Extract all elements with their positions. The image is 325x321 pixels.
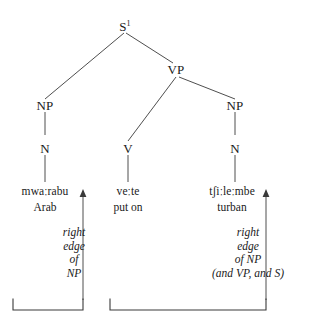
tree-node-np-object: NP bbox=[226, 99, 243, 112]
bracket-left bbox=[13, 299, 83, 310]
branch-s-vp bbox=[126, 33, 173, 63]
lexical-item-1: mwaːrabu bbox=[22, 186, 69, 198]
s-superscript: 1 bbox=[127, 19, 131, 28]
annotation-right-line-3: of NP bbox=[212, 253, 284, 267]
tree-node-n-object: N bbox=[230, 142, 240, 155]
tree-node-v: V bbox=[123, 142, 133, 155]
lexical-item-2: veːte bbox=[117, 186, 140, 198]
branch-vp-np bbox=[179, 77, 235, 99]
annotation-left-line-3: of bbox=[63, 253, 85, 267]
tree-node-np-subject: NP bbox=[36, 99, 53, 112]
annotation-left-line-1: right bbox=[63, 226, 85, 240]
branch-s-np bbox=[45, 33, 124, 99]
branch-vp-v bbox=[128, 77, 176, 141]
annotation-right-line-2: edge bbox=[212, 240, 284, 254]
gloss-1: Arab bbox=[34, 202, 57, 214]
bracket-right bbox=[110, 299, 266, 310]
annotation-left: right edge of NP bbox=[63, 226, 85, 280]
tree-node-s: S1 bbox=[119, 20, 131, 33]
gloss-2: put on bbox=[113, 202, 142, 214]
annotation-right-line-4: (and VP, and S) bbox=[212, 267, 284, 281]
tree-node-n-subject: N bbox=[40, 142, 50, 155]
annotation-right: right edge of NP (and VP, and S) bbox=[212, 226, 284, 280]
annotation-right-line-1: right bbox=[212, 226, 284, 240]
pointer-arrowhead-right bbox=[263, 189, 270, 197]
gloss-3: turban bbox=[217, 202, 246, 214]
tree-node-vp: VP bbox=[167, 63, 184, 76]
annotation-left-line-4: NP bbox=[63, 267, 85, 281]
lexical-item-3: tʃiːleːmbe bbox=[209, 186, 255, 198]
annotation-left-line-2: edge bbox=[63, 240, 85, 254]
pointer-arrowhead-left bbox=[80, 189, 87, 197]
syntax-tree-figure: S1 VP NP NP N V N mwaːrabu Arab veːte pu… bbox=[0, 0, 325, 321]
